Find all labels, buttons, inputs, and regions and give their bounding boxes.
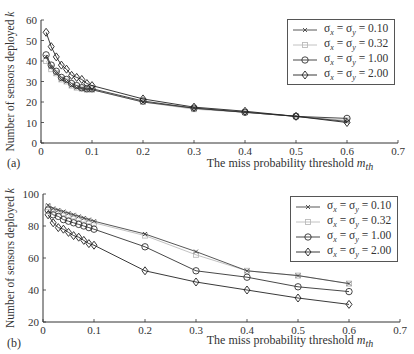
legend-x-icon (292, 24, 318, 36)
legend-circle-icon (292, 54, 318, 66)
legend-entry: σx = σy = 2.00 (292, 67, 388, 82)
legend-label: σx = σy = 0.10 (324, 22, 388, 37)
legend-diamond-icon (295, 246, 321, 258)
x-tick-label: 0 (40, 324, 46, 336)
x-tick-label: 0.1 (85, 145, 99, 157)
legend-label: σx = σy = 0.32 (324, 37, 388, 52)
y-tick-label: 60 (26, 14, 38, 26)
y-tick-label: 40 (28, 284, 40, 296)
legend-label: σx = σy = 0.10 (327, 199, 391, 214)
data-point-marker (194, 250, 198, 254)
legend-diamond-icon (292, 69, 318, 81)
legend-label: σx = σy = 1.00 (324, 52, 388, 67)
legend-entry: σx = σy = 2.00 (295, 244, 391, 259)
legend-entry: σx = σy = 0.10 (292, 22, 388, 37)
y-tick-label: 20 (28, 316, 40, 328)
y-tick-label: 30 (26, 76, 38, 88)
y-tick-label: 20 (26, 96, 38, 108)
legend-entry: σx = σy = 0.32 (295, 214, 391, 229)
x-axis-label-sub: th (365, 338, 373, 349)
y-tick-label: 10 (26, 117, 38, 129)
legend-entry: σx = σy = 1.00 (295, 229, 391, 244)
legend-entry: σx = σy = 0.32 (292, 37, 388, 52)
legend-label: σx = σy = 0.32 (327, 214, 391, 229)
panel-label-a: (a) (7, 156, 20, 171)
chart-b: 00.10.20.30.40.50.60.720406080100Number … (0, 177, 414, 354)
legend-entry: σx = σy = 1.00 (292, 52, 388, 67)
legend-x-icon (295, 201, 321, 213)
y-tick-label: 0 (32, 137, 38, 149)
x-axis-label-text: The miss probability threshold (207, 156, 357, 170)
x-axis-label-a: The miss probability threshold mth (140, 156, 414, 172)
legend-square-icon (292, 39, 318, 51)
x-axis-label-text: The miss probability threshold (207, 333, 357, 347)
legend-a: σx = σy = 0.10σx = σy = 0.32σx = σy = 1.… (287, 19, 395, 85)
x-tick-label: 0 (38, 145, 44, 157)
x-axis-label-sub: th (365, 161, 373, 172)
y-tick-label: 50 (26, 35, 38, 47)
y-tick-label: 60 (28, 252, 40, 264)
y-tick-label: 100 (23, 188, 40, 200)
legend-circle-icon (295, 231, 321, 243)
x-tick-label: 0.1 (87, 324, 101, 336)
legend-entry: σx = σy = 0.10 (295, 199, 391, 214)
legend-label: σx = σy = 2.00 (324, 67, 388, 82)
y-tick-label: 80 (28, 220, 40, 232)
legend-label: σx = σy = 2.00 (327, 244, 391, 259)
y-axis-label: Number of sensors deployed k (4, 11, 17, 152)
y-axis-label: Number of sensors deployed k (4, 187, 17, 328)
legend-square-icon (295, 216, 321, 228)
y-tick-label: 40 (26, 55, 38, 67)
panel-label-b: (b) (7, 336, 21, 351)
legend-label: σx = σy = 1.00 (327, 229, 391, 244)
legend-b: σx = σy = 0.10σx = σy = 0.32σx = σy = 1.… (290, 196, 398, 262)
chart-a: 00.10.20.30.40.50.60.70102030405060Numbe… (0, 0, 414, 177)
x-axis-label-b: The miss probability threshold mth (140, 333, 414, 349)
